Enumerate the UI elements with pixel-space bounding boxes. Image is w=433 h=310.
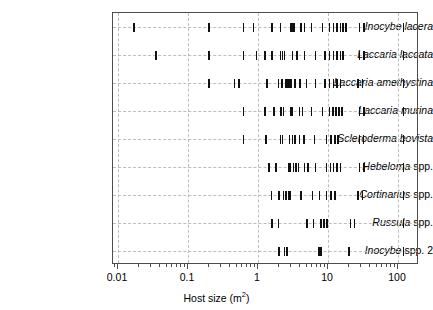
data-point	[294, 79, 296, 88]
data-point	[155, 51, 157, 60]
data-point	[302, 107, 304, 116]
x-tick-minor	[390, 264, 391, 267]
data-point	[363, 23, 365, 32]
data-point	[314, 135, 316, 144]
data-point	[326, 191, 328, 200]
data-point	[403, 51, 405, 60]
data-point	[311, 23, 313, 32]
data-point	[354, 219, 356, 228]
data-point	[285, 79, 287, 88]
data-point	[340, 23, 342, 32]
data-point	[243, 23, 245, 32]
data-point	[278, 191, 280, 200]
data-point	[338, 107, 340, 116]
data-point	[363, 135, 365, 144]
data-point	[340, 79, 342, 88]
data-point	[271, 23, 273, 32]
data-point	[291, 79, 293, 88]
chart-figure: Inocybe laceraLaccaria laccataLaccaria a…	[0, 0, 433, 310]
data-point	[300, 191, 302, 200]
data-point	[298, 163, 300, 172]
x-tick-minor	[250, 264, 251, 267]
data-point	[296, 51, 298, 60]
data-point	[290, 191, 292, 200]
data-point	[322, 23, 324, 32]
data-point	[340, 51, 342, 60]
data-point	[208, 79, 210, 88]
data-point	[292, 107, 294, 116]
data-point	[330, 135, 332, 144]
x-tick-minor	[369, 264, 370, 267]
gridline-x-1	[258, 13, 259, 263]
data-point	[324, 79, 326, 88]
gridline-x-0.01	[118, 13, 119, 263]
data-point	[359, 135, 361, 144]
data-point	[290, 163, 292, 172]
x-tick-minor	[376, 264, 377, 267]
x-tick-minor	[171, 264, 172, 267]
data-point	[319, 191, 321, 200]
x-tick-label-0.01: 0.01	[87, 271, 147, 283]
data-point	[278, 247, 280, 256]
data-point	[362, 191, 364, 200]
x-tick-minor	[381, 264, 382, 267]
data-point	[299, 135, 301, 144]
x-tick-minor	[254, 264, 255, 267]
x-tick-minor	[176, 264, 177, 267]
data-point	[281, 79, 283, 88]
gridline-x-0.1	[188, 13, 189, 263]
data-point	[329, 107, 331, 116]
data-point	[278, 79, 280, 88]
data-point	[336, 23, 338, 32]
data-point	[322, 107, 324, 116]
x-tick-minor	[236, 264, 237, 267]
data-point	[341, 107, 343, 116]
x-tick-minor	[311, 264, 312, 267]
data-point	[307, 163, 309, 172]
data-point	[403, 163, 405, 172]
data-point	[275, 163, 277, 172]
data-point	[208, 51, 210, 60]
x-tick-major	[257, 264, 258, 269]
x-tick-minor	[208, 264, 209, 267]
data-point	[289, 135, 291, 144]
x-axis-title: Host size (m2)	[0, 290, 433, 304]
data-point	[403, 107, 405, 116]
data-point	[334, 191, 336, 200]
gridline-row-1	[113, 27, 417, 28]
data-point	[403, 79, 405, 88]
gridline-row-9	[113, 251, 417, 252]
gridline-row-7	[113, 195, 417, 196]
data-point	[304, 23, 306, 32]
data-point	[333, 79, 335, 88]
x-tick-minor	[180, 264, 181, 267]
x-tick-minor	[114, 264, 115, 267]
x-tick-label-100: 100	[367, 271, 427, 283]
x-tick-minor	[320, 264, 321, 267]
x-tick-minor	[316, 264, 317, 267]
data-point	[282, 135, 284, 144]
data-point	[315, 51, 317, 60]
data-point	[329, 79, 331, 88]
data-point	[340, 163, 342, 172]
data-point	[403, 23, 405, 32]
data-point	[337, 135, 339, 144]
x-tick-major	[327, 264, 328, 269]
data-point	[133, 23, 135, 32]
data-point	[332, 107, 334, 116]
data-point	[334, 135, 336, 144]
data-point	[313, 219, 315, 228]
data-point	[315, 79, 317, 88]
data-point	[403, 247, 405, 256]
data-point	[243, 135, 245, 144]
data-point	[324, 51, 326, 60]
x-tick-minor	[348, 264, 349, 267]
data-point	[333, 51, 335, 60]
data-point	[403, 191, 405, 200]
data-point	[333, 23, 335, 32]
data-point	[266, 79, 268, 88]
data-point	[312, 191, 314, 200]
data-point	[336, 79, 338, 88]
gridline-row-8	[113, 223, 417, 224]
x-tick-minor	[324, 264, 325, 267]
